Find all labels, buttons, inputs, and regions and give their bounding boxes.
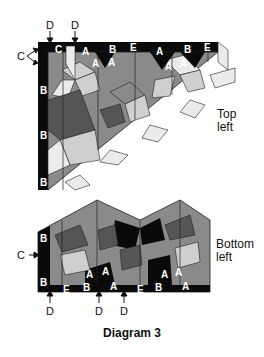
piece-label: B (40, 131, 47, 141)
piece-label: B (155, 283, 162, 293)
piece-label: B (184, 45, 191, 55)
piece-label: A (182, 282, 189, 292)
bottom-left-label-line2: left (216, 251, 254, 264)
piece-label: B (40, 178, 47, 188)
diagram-caption: Diagram 3 (0, 326, 264, 340)
piece-label: B (109, 45, 116, 55)
callout-d-bottom-3: D (120, 305, 128, 317)
callout-c-bottom: C (17, 249, 25, 261)
bottom-left-label: Bottom left (216, 238, 254, 264)
callout-d-top-2: D (71, 19, 79, 31)
piece-label: B (40, 234, 47, 244)
top-left-quilt-section (38, 42, 235, 190)
callout-c-top: C (17, 50, 25, 62)
callout-d-bottom-2: D (95, 305, 103, 317)
piece-label: B (40, 278, 47, 288)
piece-label: E (204, 43, 211, 53)
top-left-label: Top left (217, 108, 236, 134)
piece-label: A (108, 58, 115, 68)
piece-label: A (180, 59, 187, 69)
piece-label: A (165, 62, 172, 72)
piece-label: A (102, 267, 109, 277)
piece-label: B (40, 86, 47, 96)
piece-label: A (110, 282, 117, 292)
callout-d-top-1: D (46, 19, 54, 31)
piece-label: A (82, 47, 89, 57)
piece-label: A (156, 47, 163, 57)
callout-d-bottom-1: D (46, 305, 54, 317)
piece-label: A (92, 59, 99, 69)
piece-label: E (137, 285, 144, 295)
piece-label: A (161, 270, 168, 280)
bottom-left-quilt-section (38, 200, 210, 292)
piece-label: B (83, 283, 90, 293)
piece-label: A (86, 270, 93, 280)
piece-label: A (175, 268, 182, 278)
piece-label: C (55, 45, 62, 55)
top-left-label-line2: left (217, 121, 236, 134)
piece-label: E (130, 43, 137, 53)
piece-label: E (63, 285, 70, 295)
